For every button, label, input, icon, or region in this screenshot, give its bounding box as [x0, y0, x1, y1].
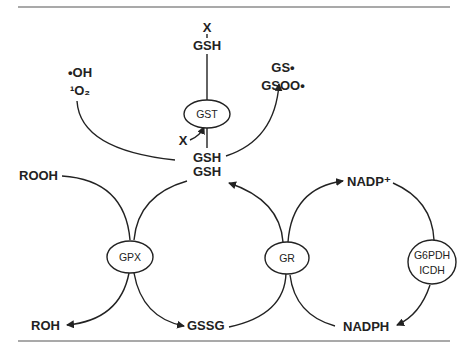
nadph-to-gr-arc [290, 275, 335, 326]
gsoo-radical-label: GSOO• [261, 78, 305, 93]
gssg-label: GSSG [187, 318, 225, 333]
g6pdh-label: G6PDH [414, 249, 450, 261]
nadp-plus-label: NADP⁺ [347, 174, 391, 189]
nadp-to-g6pdh-arc [393, 183, 434, 240]
gpx-to-roh-arrow [67, 273, 129, 325]
gsh-to-gpx-arc [134, 181, 187, 240]
rooh-to-gpx-arc [62, 176, 130, 240]
g6pdh-icdh-enzyme-oval [408, 240, 456, 284]
gsh-top-label: GSH [193, 38, 221, 53]
x-top-label: X [203, 20, 212, 35]
gsh-label-2: GSH [193, 164, 221, 179]
x-side-label: X [179, 133, 188, 148]
gr-to-nadp-arrow [288, 181, 343, 242]
gr-to-gsh-arrow [229, 183, 283, 242]
rooh-label: ROOH [19, 168, 58, 183]
glutathione-cycle-diagram: GST GPX GR G6PDH ICDH X GSH •OH ¹O₂ GS• … [0, 0, 472, 353]
hydroxyl-radical-label: •OH [68, 65, 92, 80]
nadph-label: NADPH [343, 319, 389, 334]
gsh-to-radicals-arrow [226, 84, 279, 156]
ros-arc [77, 101, 175, 160]
g6pdh-to-nadph-arrow [397, 285, 430, 325]
gr-label: GR [279, 252, 295, 264]
singlet-oxygen-label: ¹O₂ [70, 83, 90, 98]
gpx-to-gssg-arrow [134, 273, 184, 326]
icdh-label: ICDH [419, 264, 445, 276]
gssg-to-gr-arc [229, 273, 286, 327]
gpx-label: GPX [119, 251, 141, 263]
gs-radical-label: GS• [271, 60, 295, 75]
gst-label: GST [196, 108, 218, 120]
gsh-label-1: GSH [193, 150, 221, 165]
roh-label: ROH [31, 318, 60, 333]
x-to-gst-arrow [190, 127, 204, 140]
